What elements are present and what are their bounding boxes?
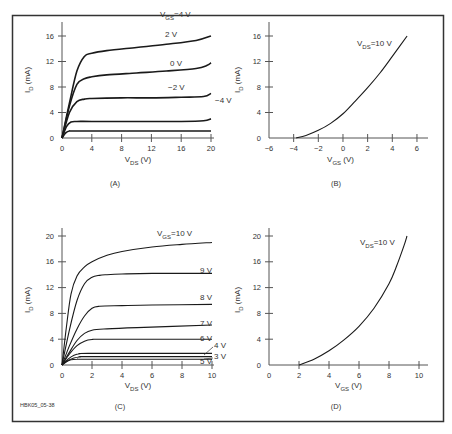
series-label: 9 V: [200, 266, 213, 275]
y-tick-label: 12: [46, 283, 54, 292]
y-tick-label: 0: [257, 361, 261, 370]
y-tick-label: 12: [46, 57, 54, 66]
y-tick-label: 16: [253, 32, 261, 41]
x-tick-label: 0: [267, 371, 271, 380]
x-tick-label: 8: [180, 371, 184, 380]
x-tick-label: 2: [297, 371, 301, 380]
x-tick-label: 10: [208, 371, 216, 380]
x-tick-label: −6: [265, 144, 274, 153]
figure: 0481216048121620VDS (V)ID (mA)(A)VGS=4 V…: [0, 0, 452, 434]
x-tick-label: 16: [177, 144, 185, 153]
y-tick-label: 16: [46, 32, 54, 41]
y-tick-label: 12: [253, 283, 261, 292]
y-tick-label: 4: [257, 108, 261, 117]
y-tick-label: 16: [253, 257, 261, 266]
x-tick-label: 6: [415, 144, 419, 153]
series-label: 2 V: [165, 30, 178, 39]
x-tick-label: 8: [120, 144, 124, 153]
x-tick-label: 4: [90, 144, 94, 153]
y-tick-label: 8: [257, 83, 261, 92]
panel-label: (A): [110, 179, 121, 188]
y-tick-label: 12: [253, 57, 261, 66]
x-tick-label: 0: [60, 144, 64, 153]
x-tick-label: 0: [341, 144, 345, 153]
panel-label: (C): [115, 402, 126, 411]
x-tick-label: 10: [415, 371, 423, 380]
y-tick-label: 0: [50, 361, 54, 370]
x-tick-label: 0: [60, 371, 64, 380]
figure-id-label: HBK05_05-38: [20, 402, 55, 408]
y-tick-label: 0: [50, 134, 54, 143]
x-tick-label: −4: [289, 144, 298, 153]
series-label: 3 V: [214, 352, 227, 361]
y-tick-label: 8: [257, 309, 261, 318]
figure-frame: [13, 16, 444, 422]
y-tick-label: 4: [257, 335, 261, 344]
x-tick-label: 6: [150, 371, 154, 380]
y-tick-label: 4: [50, 335, 54, 344]
x-tick-label: 4: [327, 371, 331, 380]
series-label: 7 V: [200, 319, 213, 328]
x-tick-label: 4: [390, 144, 394, 153]
panel-label: (B): [331, 179, 342, 188]
panel-label: (D): [331, 402, 342, 411]
series-label: 8 V: [200, 293, 213, 302]
series-label: 4 V: [214, 341, 227, 350]
x-tick-label: 20: [207, 144, 215, 153]
x-tick-label: 2: [366, 144, 370, 153]
y-tick-label: 20: [253, 232, 261, 241]
x-tick-label: 8: [387, 371, 391, 380]
x-tick-label: −2: [314, 144, 323, 153]
x-tick-label: 2: [90, 371, 94, 380]
y-tick-label: 20: [46, 232, 54, 241]
y-tick-label: 0: [257, 134, 261, 143]
y-tick-label: 8: [50, 83, 54, 92]
series-label: −2 V: [168, 83, 185, 92]
series-label: −4 V: [215, 96, 232, 105]
series-label: 0 V: [170, 59, 183, 68]
x-tick-label: 6: [357, 371, 361, 380]
x-tick-label: 12: [147, 144, 155, 153]
y-tick-label: 16: [46, 257, 54, 266]
x-tick-label: 4: [120, 371, 124, 380]
series-label: 6 V: [200, 334, 213, 343]
y-tick-label: 8: [50, 309, 54, 318]
y-tick-label: 4: [50, 108, 54, 117]
